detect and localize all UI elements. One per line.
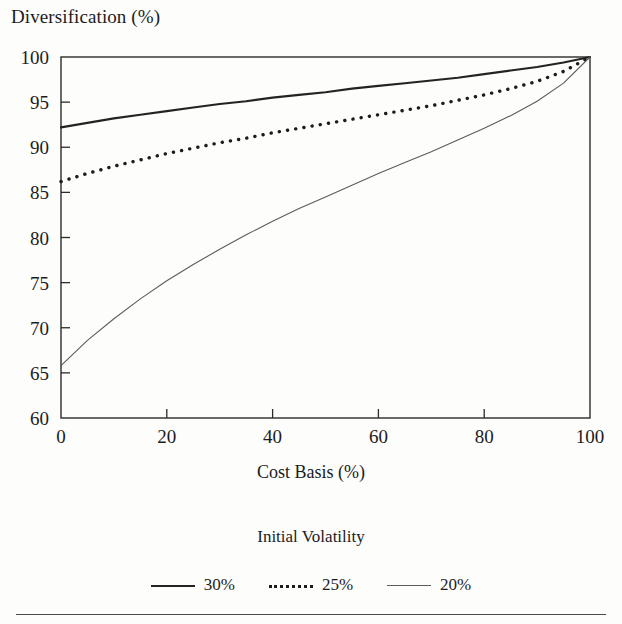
y-tick-label: 80 [30, 228, 49, 249]
legend-item-label: 25% [322, 575, 353, 595]
legend-item-25pct[interactable]: 25% [269, 575, 353, 595]
y-tick-label: 75 [30, 273, 49, 294]
plot-area: 6065707580859095100020406080100 [0, 0, 622, 470]
series-line-25pct [61, 57, 590, 182]
footer-rule [16, 614, 606, 615]
legend: 30%25%20% [0, 575, 622, 595]
x-axis-title: Cost Basis (%) [0, 462, 622, 483]
chart-figure: Diversification (%) 60657075808590951000… [0, 0, 622, 624]
y-tick-label: 60 [30, 408, 49, 429]
legend-line-swatch-icon [151, 579, 195, 591]
x-tick-label: 100 [576, 426, 605, 447]
legend-line-swatch-icon [387, 579, 431, 591]
plot-frame [61, 57, 590, 418]
x-tick-label: 40 [263, 426, 282, 447]
legend-item-label: 20% [440, 575, 471, 595]
y-tick-label: 70 [30, 318, 49, 339]
x-tick-label: 80 [475, 426, 494, 447]
y-tick-label: 85 [30, 182, 49, 203]
y-tick-label: 65 [30, 363, 49, 384]
legend-item-20pct[interactable]: 20% [387, 575, 471, 595]
legend-item-30pct[interactable]: 30% [151, 575, 235, 595]
y-tick-label: 100 [21, 47, 50, 68]
x-tick-label: 20 [157, 426, 176, 447]
x-tick-label: 60 [369, 426, 388, 447]
series-line-30pct [61, 57, 590, 127]
y-tick-label: 95 [30, 92, 49, 113]
legend-title: Initial Volatility [0, 527, 622, 547]
legend-item-label: 30% [204, 575, 235, 595]
legend-line-swatch-icon [269, 579, 313, 591]
y-tick-label: 90 [30, 137, 49, 158]
series-line-20pct [61, 57, 590, 366]
x-tick-label: 0 [56, 426, 66, 447]
